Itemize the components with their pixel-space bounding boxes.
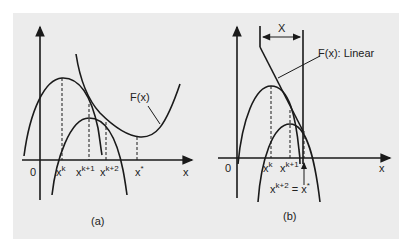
caption-b: (b) xyxy=(283,210,296,222)
tick-label-xk1-a: xk+1 xyxy=(76,164,95,178)
diagram-a xyxy=(22,27,192,200)
linear-function-b xyxy=(260,47,303,131)
tick-label-xstar-a: x* xyxy=(135,164,144,178)
leader-fx-b xyxy=(278,56,320,78)
tick-label-xk2-a: xk+2 xyxy=(100,164,119,178)
caption-a: (a) xyxy=(91,215,104,227)
figure-svg: 0 x F(x) xk xk+1 xk+2 x* (a) 0 x X F(x): xyxy=(0,0,412,249)
x-axis-label-a: x xyxy=(183,166,189,178)
tick-label-xk1-b: xk+1 xyxy=(280,160,299,174)
origin-label-a: 0 xyxy=(30,166,36,178)
solution-label-b: xk+2 = x* xyxy=(270,181,310,195)
parabola-k-a xyxy=(24,78,102,156)
function-curve-a xyxy=(76,54,180,137)
parabola-k-b xyxy=(238,86,300,164)
origin-label-b: 0 xyxy=(225,162,231,174)
tick-label-xk-b: xk xyxy=(263,160,274,174)
tick-label-xk-a: xk xyxy=(56,164,67,178)
function-label-a: F(x) xyxy=(130,91,150,103)
function-label-b: F(x): Linear xyxy=(318,47,375,59)
leader-fx-a xyxy=(148,106,160,124)
x-axis-label-b: x xyxy=(379,162,385,174)
interval-label-b: X xyxy=(278,22,286,34)
